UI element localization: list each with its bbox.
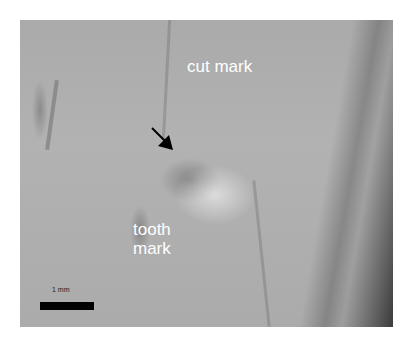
- bone-crack: [252, 180, 270, 327]
- tooth-mark-label-line2: mark: [133, 239, 171, 258]
- bone-crack: [45, 80, 59, 150]
- scale-bar: [40, 302, 94, 310]
- bone-crack: [162, 20, 171, 140]
- arrow-icon: [148, 125, 178, 155]
- tooth-mark-label-line1: tooth: [133, 220, 171, 239]
- tooth-mark-label: tooth mark: [133, 220, 171, 258]
- cut-mark-label: cut mark: [187, 57, 252, 76]
- scale-label: 1 mm: [52, 286, 70, 293]
